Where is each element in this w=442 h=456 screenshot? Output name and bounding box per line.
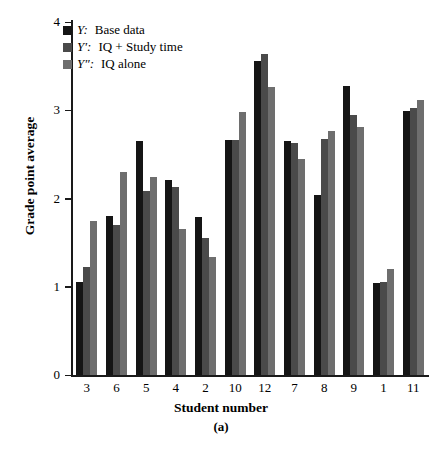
y-tick-label-0: 0: [34, 368, 60, 381]
bar-1-series-3: [387, 269, 394, 375]
bar-7-series-3: [298, 159, 305, 375]
bar-group-student-1: [373, 22, 394, 375]
bar-11-series-1: [403, 111, 410, 375]
legend-symbol-2: Y′:: [77, 39, 91, 55]
bar-group-student-11: [403, 22, 424, 375]
legend-item-3: Y″:IQ alone: [63, 56, 253, 72]
y-tick-label-1: 1: [34, 280, 60, 293]
bar-9-series-1: [343, 86, 350, 375]
bar-2-series-2: [202, 238, 209, 375]
legend-swatch-icon-2: [63, 43, 72, 52]
legend-symbol-1: Y:: [77, 22, 88, 38]
y-axis-title: Grade point average: [22, 96, 38, 256]
bar-group-student-7: [284, 22, 305, 375]
bar-6-series-3: [120, 172, 127, 375]
legend-swatch-icon-1: [63, 26, 72, 35]
bar-12-series-2: [261, 54, 268, 375]
legend-item-2: Y′:IQ + Study time: [63, 39, 253, 55]
bar-group-student-6: [106, 22, 127, 375]
bar-5-series-2: [143, 191, 150, 375]
legend-swatch-icon-3: [63, 60, 72, 69]
legend-label-2: IQ + Study time: [98, 39, 182, 55]
bar-10-series-1: [225, 140, 232, 375]
bar-12-series-3: [268, 87, 275, 375]
bar-12-series-1: [254, 61, 261, 375]
plot-area: [72, 22, 428, 375]
y-tick-2: [65, 198, 72, 200]
y-tick-1: [65, 286, 72, 288]
legend-item-1: Y:Base data: [63, 22, 253, 38]
bar-8-series-2: [321, 139, 328, 375]
bar-7-series-2: [291, 143, 298, 375]
bar-8-series-1: [314, 195, 321, 375]
bar-1-series-1: [373, 283, 380, 375]
bar-6-series-2: [113, 225, 120, 375]
bar-9-series-3: [357, 127, 364, 375]
figure-panel-a: 01234 Grade point average 36542101278911…: [0, 0, 442, 456]
bar-group-student-8: [314, 22, 335, 375]
y-tick-0: [65, 375, 72, 377]
bar-group-student-10: [225, 22, 246, 375]
bar-7-series-1: [284, 141, 291, 375]
bar-group-student-4: [165, 22, 186, 375]
bar-5-series-3: [150, 177, 157, 375]
bar-6-series-1: [106, 216, 113, 375]
bar-10-series-3: [239, 112, 246, 375]
bar-3-series-3: [90, 221, 97, 375]
bar-9-series-2: [350, 115, 357, 375]
bar-4-series-1: [165, 180, 172, 375]
bar-1-series-2: [380, 282, 387, 375]
bar-11-series-3: [417, 100, 424, 375]
x-axis-line: [71, 375, 429, 377]
legend-label-3: IQ alone: [101, 56, 146, 72]
legend-label-1: Base data: [95, 22, 145, 38]
bar-11-series-2: [410, 108, 417, 375]
bar-3-series-1: [76, 282, 83, 375]
y-tick-label-4: 4: [34, 15, 60, 28]
bar-group-student-2: [195, 22, 216, 375]
bar-10-series-2: [232, 140, 239, 375]
bar-2-series-1: [195, 217, 202, 375]
x-axis-title: Student number: [0, 400, 442, 416]
bar-3-series-2: [83, 267, 90, 375]
bar-4-series-3: [179, 229, 186, 375]
x-tick-label-11: 11: [393, 381, 433, 395]
y-tick-3: [65, 110, 72, 112]
panel-label: (a): [0, 419, 442, 435]
bar-4-series-2: [172, 187, 179, 375]
bar-group-student-3: [76, 22, 97, 375]
bar-group-student-12: [254, 22, 275, 375]
bar-5-series-1: [136, 141, 143, 375]
legend-symbol-3: Y″:: [77, 56, 94, 72]
bar-group-student-9: [343, 22, 364, 375]
bar-group-student-5: [136, 22, 157, 375]
bar-8-series-3: [328, 131, 335, 375]
bar-2-series-3: [209, 257, 216, 375]
chart-legend: Y:Base dataY′:IQ + Study timeY″:IQ alone: [63, 22, 253, 73]
